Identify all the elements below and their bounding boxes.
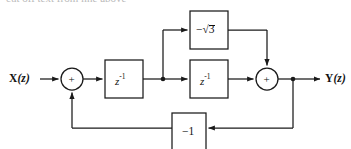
output-signal-arg: (z) (333, 72, 345, 84)
adder-output-plus-sign: + (264, 74, 270, 85)
delay-1-label: z-1 (115, 74, 126, 87)
delay-2-label: z-1 (200, 74, 211, 87)
delay-2-exponent: -1 (204, 72, 210, 81)
input-signal-arg: (z) (17, 72, 29, 84)
adder-input-plus-sign: + (69, 74, 75, 85)
diagram-canvas (0, 0, 351, 149)
junction-dot-after-delay1 (161, 77, 166, 82)
delay-1-exponent: -1 (119, 72, 125, 81)
output-signal-label: Y(z) (325, 73, 346, 85)
gain-sqrt3-overbar (209, 25, 215, 26)
input-signal-label: X(z) (9, 73, 30, 85)
gain-minus-one-label: −1 (182, 126, 194, 138)
junction-dot-output (291, 77, 296, 82)
gain-sqrt3-label: −√3 (196, 24, 215, 36)
gain-sqrt3-radical-group: √3 (203, 24, 215, 36)
block-diagram-figure: cut off text from line above (0, 0, 351, 149)
